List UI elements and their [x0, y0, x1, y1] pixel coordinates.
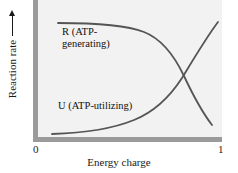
- x-tick-label-1: 1: [218, 143, 224, 155]
- x-tick-label-0: 0: [33, 143, 39, 155]
- x-axis-title: Energy charge: [0, 156, 238, 169]
- y-axis-line: [33, 0, 38, 142]
- y-axis-title-wrapper: Reaction rate: [4, 0, 20, 114]
- x-axis-line: [33, 137, 222, 142]
- up-arrow-icon: [9, 10, 16, 36]
- curve-label-u: U (ATP-utilizing): [58, 100, 132, 112]
- curve-label-r: R (ATP- generating): [62, 26, 110, 49]
- curves-svg: [38, 0, 222, 137]
- y-axis-title: Reaction rate: [6, 40, 19, 98]
- energy-charge-figure: R (ATP- generating) U (ATP-utilizing) 0 …: [0, 0, 238, 173]
- plot-area: R (ATP- generating) U (ATP-utilizing): [38, 0, 222, 137]
